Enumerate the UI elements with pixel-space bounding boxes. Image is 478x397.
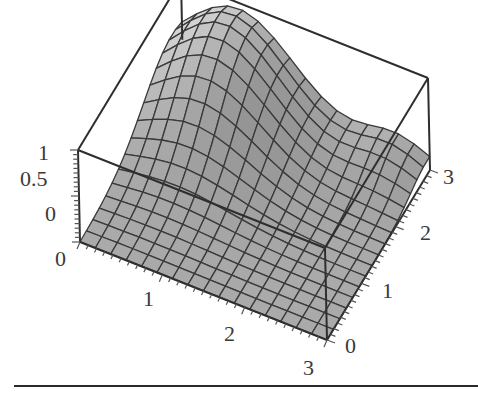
surface-mesh [80, 6, 430, 340]
y-tick-2: 2 [420, 222, 431, 244]
z-tick-1: 1 [38, 142, 49, 164]
x-tick-1: 1 [143, 288, 154, 310]
y-tick-1: 1 [382, 280, 393, 302]
z-tick-0: 0 [45, 203, 56, 225]
x-tick-3: 3 [303, 357, 314, 379]
y-tick-0: 0 [345, 335, 356, 357]
z-tick-0.5: 0.5 [20, 168, 48, 190]
horizontal-rule [14, 385, 478, 387]
surface-plot [0, 0, 478, 397]
y-tick-3: 3 [443, 166, 454, 188]
x-tick-2: 2 [224, 323, 235, 345]
x-tick-0: 0 [55, 248, 66, 270]
